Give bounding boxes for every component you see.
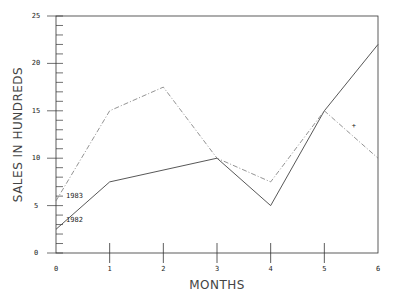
- y-axis-label: SALES IN HUNDREDS: [11, 67, 25, 202]
- series-label-1983: 1983: [66, 192, 83, 200]
- y-tick-label: 10: [32, 154, 40, 162]
- plot-axes: 05101520250123456: [32, 12, 380, 273]
- series-label-1982: 1982: [66, 216, 83, 224]
- x-tick-label: 0: [54, 265, 58, 273]
- x-tick-label: 4: [269, 265, 273, 273]
- line-chart: 05101520250123456 19831982+ MONTHSSALES …: [0, 0, 393, 296]
- plot-frame: [56, 16, 378, 253]
- y-tick-label: 5: [34, 202, 38, 210]
- annotation-marker: +: [352, 122, 356, 130]
- y-tick-label: 20: [32, 59, 40, 67]
- x-tick-label: 2: [161, 265, 165, 273]
- x-tick-label: 1: [108, 265, 112, 273]
- axis-labels: MONTHSSALES IN HUNDREDS: [11, 67, 245, 292]
- x-tick-label: 3: [215, 265, 219, 273]
- x-tick-label: 6: [376, 265, 380, 273]
- y-tick-label: 25: [32, 12, 40, 20]
- data-series: 19831982+: [56, 44, 378, 229]
- series-1982: [56, 44, 378, 229]
- y-tick-label: 0: [34, 249, 38, 257]
- x-axis-label: MONTHS: [189, 278, 245, 292]
- y-tick-label: 15: [32, 107, 40, 115]
- x-tick-label: 5: [322, 265, 326, 273]
